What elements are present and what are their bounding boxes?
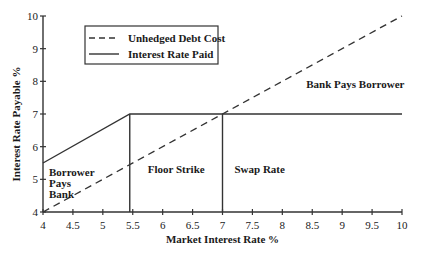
y-tick-label: 7 bbox=[33, 108, 39, 120]
y-axis-title: Interest Rate Payable % bbox=[10, 67, 22, 182]
legend-label: Interest Rate Paid bbox=[128, 48, 213, 60]
x-axis-title: Market Interest Rate % bbox=[166, 233, 279, 245]
x-tick-label: 5 bbox=[100, 219, 106, 231]
y-tick-label: 4 bbox=[33, 206, 39, 218]
y-tick-label: 8 bbox=[33, 75, 39, 87]
x-tick-label: 8.5 bbox=[305, 219, 319, 231]
borrower-pays-bank-annotation: BorrowerPaysBank bbox=[49, 166, 95, 200]
x-tick-label: 5.5 bbox=[126, 219, 140, 231]
chart-canvas: 44.555.566.577.588.599.51045678910Borrow… bbox=[0, 0, 429, 257]
x-tick-label: 9.5 bbox=[365, 219, 379, 231]
legend: Unhedged Debt CostInterest Rate Paid bbox=[85, 26, 226, 64]
x-tick-label: 10 bbox=[397, 219, 409, 231]
plot-area: 44.555.566.577.588.599.51045678910Borrow… bbox=[10, 10, 408, 245]
x-tick-label: 4.5 bbox=[66, 219, 80, 231]
y-tick-label: 5 bbox=[33, 173, 39, 185]
y-tick-label: 6 bbox=[33, 141, 39, 153]
y-tick-label: 10 bbox=[27, 10, 39, 22]
legend-label: Unhedged Debt Cost bbox=[128, 32, 226, 44]
x-tick-label: 4 bbox=[40, 219, 46, 231]
x-tick-label: 8 bbox=[280, 219, 286, 231]
x-tick-label: 9 bbox=[339, 219, 345, 231]
bank-pays-borrower-annotation: Bank Pays Borrower bbox=[306, 78, 404, 90]
floor-strike-annotation: Floor Strike bbox=[148, 163, 205, 175]
y-tick-label: 9 bbox=[33, 43, 39, 55]
x-tick-label: 6.5 bbox=[186, 219, 200, 231]
x-tick-label: 7 bbox=[220, 219, 226, 231]
swap-rate-annotation: Swap Rate bbox=[234, 163, 285, 175]
x-tick-label: 6 bbox=[160, 219, 166, 231]
x-tick-label: 7.5 bbox=[246, 219, 260, 231]
